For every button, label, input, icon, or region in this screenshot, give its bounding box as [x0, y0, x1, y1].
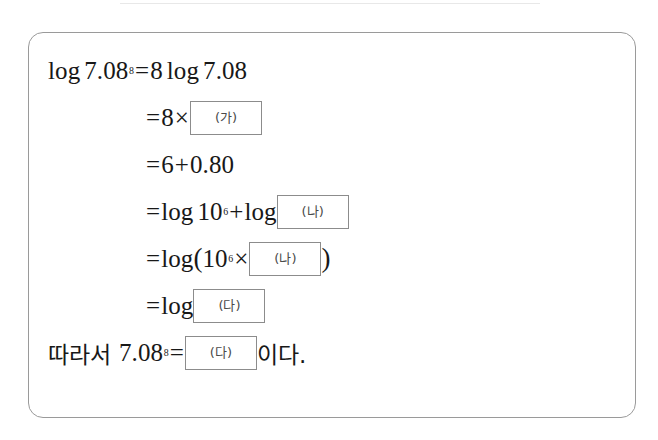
- equation-line-2: = 8 × (가): [29, 94, 635, 141]
- blank-box-ga-1[interactable]: (가): [190, 101, 262, 135]
- line3-equals: =: [145, 152, 161, 177]
- line1-rhs-value: 7.08: [203, 58, 247, 83]
- blank-box-da-2[interactable]: (다): [185, 336, 257, 370]
- derivation-block: log 7.088 = 8 log 7.08 = 8 × (가) = 6 + 0…: [29, 33, 635, 376]
- blank-box-na-2[interactable]: (나): [249, 242, 321, 276]
- equation-line-7-conclusion: 따라서 7.088 = (다) 이다.: [29, 329, 635, 376]
- line1-lhs-base: 7.08: [84, 58, 128, 83]
- line1-equals: =: [134, 58, 150, 83]
- line2-times-operator: ×: [174, 105, 190, 130]
- equation-line-6: = log (다): [29, 282, 635, 329]
- line1-rhs-coefficient: 8: [150, 58, 163, 83]
- line1-rhs-log: log: [167, 58, 199, 83]
- line2-coefficient: 8: [161, 105, 174, 130]
- blank-box-na-1[interactable]: (나): [277, 195, 349, 229]
- line4-plus-operator: +: [228, 199, 244, 224]
- line4-base-ten: 10: [197, 199, 222, 224]
- scan-artifact-line: [120, 3, 540, 4]
- line3-term2: 0.80: [190, 152, 234, 177]
- line4-equals: =: [145, 199, 161, 224]
- conclusion-equals: =: [169, 340, 185, 365]
- equation-line-4: = log 106 + log (나): [29, 188, 635, 235]
- line1-lhs-log: log: [48, 58, 80, 83]
- equation-line-3: = 6 + 0.80: [29, 141, 635, 188]
- line5-log: log: [161, 246, 193, 271]
- line5-close-paren: ): [321, 243, 330, 274]
- equation-line-5: = log ( 106 × (나) ): [29, 235, 635, 282]
- equation-line-1: log 7.088 = 8 log 7.08: [29, 47, 635, 94]
- line5-open-paren: (: [193, 243, 202, 274]
- conclusion-base: 7.08: [119, 340, 163, 365]
- conclusion-suffix: 이다.: [257, 336, 306, 370]
- conclusion-prefix: 따라서: [48, 336, 111, 370]
- line5-times-operator: ×: [233, 246, 249, 271]
- blank-box-da-1[interactable]: (다): [193, 289, 265, 323]
- line6-log: log: [161, 293, 193, 318]
- line5-base-ten: 10: [202, 246, 227, 271]
- line3-term1: 6: [161, 152, 174, 177]
- line2-equals: =: [145, 105, 161, 130]
- line5-equals: =: [145, 246, 161, 271]
- line4-log-first: log: [161, 199, 193, 224]
- line4-log-second: log: [244, 199, 276, 224]
- line3-plus-operator: +: [174, 152, 190, 177]
- line6-equals: =: [145, 293, 161, 318]
- problem-card: log 7.088 = 8 log 7.08 = 8 × (가) = 6 + 0…: [28, 32, 636, 418]
